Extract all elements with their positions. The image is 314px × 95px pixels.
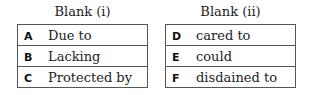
blank-ii-table: D cared to E could F disdained to — [165, 24, 296, 88]
option-row[interactable]: A Due to — [18, 25, 148, 46]
option-row[interactable]: F disdained to — [166, 67, 296, 88]
option-letter: E — [166, 51, 180, 64]
option-row[interactable]: C Protected by — [18, 67, 148, 88]
option-letter: A — [18, 30, 33, 43]
option-letter: D — [166, 30, 181, 43]
option-text: could — [196, 49, 232, 64]
option-letter: B — [18, 51, 32, 64]
option-row[interactable]: D cared to — [166, 25, 296, 46]
option-row[interactable]: B Lacking — [18, 46, 148, 67]
option-text: Protected by — [48, 70, 132, 85]
option-text: Lacking — [48, 49, 100, 64]
option-text: disdained to — [196, 70, 277, 85]
blank-ii-group: Blank (ii) D cared to E could F disdaine… — [165, 0, 296, 95]
blank-i-group: Blank (i) A Due to B Lacking C Protected… — [17, 0, 148, 95]
option-row[interactable]: E could — [166, 46, 296, 67]
blank-ii-title: Blank (ii) — [165, 4, 296, 19]
blank-i-table: A Due to B Lacking C Protected by — [17, 24, 148, 88]
option-text: Due to — [48, 28, 92, 43]
blank-i-title: Blank (i) — [17, 4, 148, 19]
option-letter: F — [166, 72, 180, 85]
option-text: cared to — [196, 28, 250, 43]
option-letter: C — [18, 72, 32, 85]
